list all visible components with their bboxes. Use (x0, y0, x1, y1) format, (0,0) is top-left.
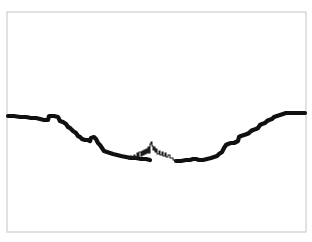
profile-chart-figure (0, 0, 312, 242)
plot-canvas (0, 0, 312, 242)
plot-frame (7, 12, 306, 232)
